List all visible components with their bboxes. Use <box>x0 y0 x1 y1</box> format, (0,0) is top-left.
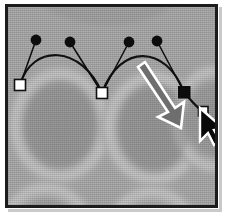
drag-direction-arrow <box>138 62 184 128</box>
anchor-point-1[interactable] <box>15 80 26 91</box>
figure-shadow-bottom <box>8 209 222 212</box>
handle-line-3 <box>102 42 129 93</box>
control-handle-dot-2[interactable] <box>65 37 76 48</box>
figure-shadow-right <box>219 7 222 212</box>
image-frame <box>5 4 218 208</box>
bezier-path[interactable] <box>20 55 203 112</box>
control-handle-dot-4[interactable] <box>152 36 163 47</box>
anchor-point-3-selected[interactable] <box>179 87 191 99</box>
handle-line-2 <box>70 42 102 93</box>
screenshot-stage <box>0 0 226 223</box>
control-handle-dot-1[interactable] <box>31 35 42 46</box>
mouse-cursor <box>200 108 218 145</box>
control-handle-dot-3[interactable] <box>124 37 135 48</box>
anchor-point-2[interactable] <box>97 88 108 99</box>
vector-path-overlay <box>8 7 215 205</box>
